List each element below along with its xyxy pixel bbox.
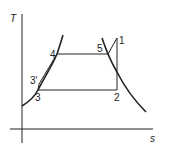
saturated-vapor-curve [102, 38, 146, 112]
ts-diagram: T s 1 2 3 3′ 4 5 [0, 0, 170, 152]
point-label-1: 1 [119, 35, 125, 46]
process-1-5 [108, 38, 117, 54]
saturated-liquid-curve [22, 35, 63, 106]
point-label-5: 5 [97, 43, 103, 54]
point-label-4: 4 [50, 49, 56, 60]
point-label-3-prime: 3′ [30, 75, 38, 86]
point-label-3: 3 [35, 92, 41, 103]
t-axis-label: T [10, 13, 17, 24]
point-label-2: 2 [114, 92, 120, 103]
s-axis-label: s [150, 133, 155, 144]
